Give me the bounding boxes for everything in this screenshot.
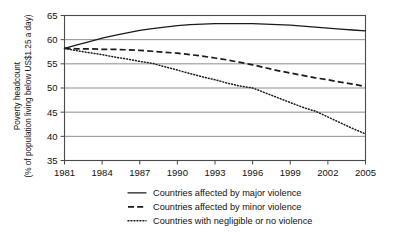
y-tick-label: 50	[47, 82, 58, 93]
gridlines	[65, 40, 366, 137]
x-tick-label: 1984	[92, 167, 113, 178]
y-tick-label: 60	[47, 34, 58, 45]
x-tick-label: 2005	[355, 167, 376, 178]
data-series	[65, 24, 366, 134]
legend-label-0: Countries affected by major violence	[153, 188, 301, 198]
y-axis-title-line2: (% of population living below US$1.25 a …	[24, 14, 33, 177]
x-tick-label: 1993	[204, 167, 225, 178]
y-tick-label: 65	[47, 10, 58, 21]
series-line-0	[65, 24, 366, 49]
x-tick-marks	[65, 161, 366, 165]
series-line-2	[65, 48, 366, 134]
y-tick-label: 55	[47, 58, 58, 69]
x-tick-label: 1999	[280, 167, 301, 178]
y-axis-tick-labels: 35404550556065	[47, 10, 58, 166]
poverty-headcount-line-chart: Poverty headcount (% of population livin…	[0, 0, 393, 234]
y-tick-marks	[61, 16, 65, 161]
y-axis-title-line1: Poverty headcount	[13, 61, 22, 130]
chart-legend: Countries affected by major violenceCoun…	[128, 188, 312, 226]
y-tick-label: 40	[47, 131, 58, 142]
x-tick-label: 2002	[317, 167, 338, 178]
y-tick-label: 45	[47, 107, 58, 118]
x-tick-label: 1990	[167, 167, 188, 178]
y-tick-label: 35	[47, 155, 58, 166]
series-line-1	[65, 48, 366, 86]
x-tick-label: 1987	[129, 167, 150, 178]
x-axis-tick-labels: 198119841987199019931996199920022005	[54, 167, 376, 178]
chart-canvas: Poverty headcount (% of population livin…	[0, 0, 393, 234]
x-tick-label: 1981	[54, 167, 75, 178]
legend-label-2: Countries with negligible or no violence	[153, 216, 312, 226]
y-axis-title: Poverty headcount (% of population livin…	[13, 14, 33, 177]
legend-label-1: Countries affected by minor violence	[153, 202, 301, 212]
x-tick-label: 1996	[242, 167, 263, 178]
